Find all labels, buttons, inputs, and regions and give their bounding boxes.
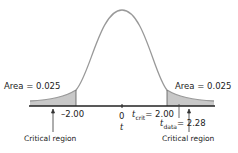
left-tick-label: –2.00 — [61, 110, 84, 119]
t-distribution-diagram — [0, 0, 238, 153]
left-critical-region-label: Critical region — [24, 135, 76, 143]
right-critical-region-label: Critical region — [162, 135, 214, 143]
left-region-arrow — [52, 109, 55, 132]
zero-tick-label: 0 — [119, 112, 124, 121]
left-area-label: Area = 0.025 — [4, 82, 60, 91]
right-area-label: Area = 0.025 — [175, 82, 231, 91]
axis-variable-label: t — [120, 123, 123, 132]
tdata-label: tdata= 2.28 — [160, 119, 206, 130]
